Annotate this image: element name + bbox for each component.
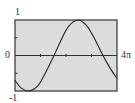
x-max-label: 4π <box>121 50 131 60</box>
plot-area <box>0 0 135 103</box>
y-max-label: 1 <box>15 7 20 17</box>
x-min-label: 0 <box>5 50 10 60</box>
y-min-label: -1 <box>9 93 17 103</box>
